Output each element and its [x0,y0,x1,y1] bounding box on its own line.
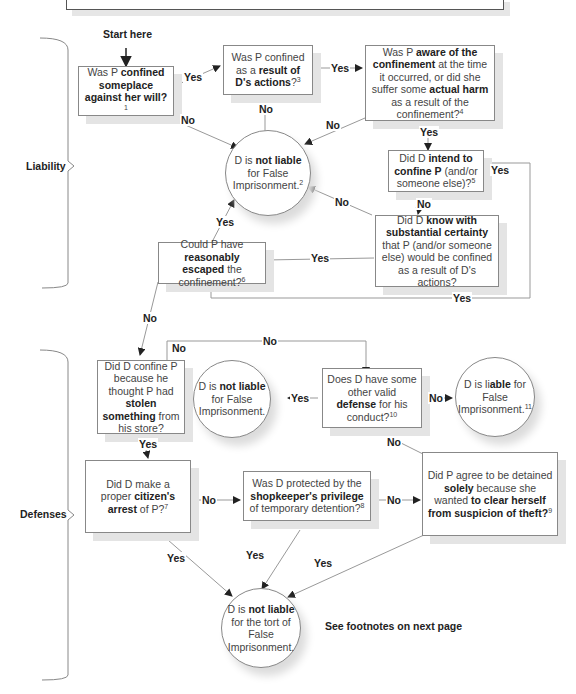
edge-label-yes: Yes [419,126,439,138]
node-stolen-something[interactable]: Did D confine P because he thought P had… [97,360,185,434]
edge-label-yes: Yes [452,292,472,304]
edge-label-yes: Yes [245,549,265,561]
edge-label-no: No [180,114,196,126]
edge-label-no: No [416,198,432,210]
edge-label-no: No [201,494,217,506]
edge-label-yes: Yes [183,71,203,83]
node-confined-against-will[interactable]: Was P confined someplace against her wil… [78,66,174,116]
node-result-of-actions[interactable]: Was P confined as a result of D's action… [223,45,313,95]
edge-label-no: No [386,436,402,448]
footnote-note: See footnotes on next page [325,620,462,632]
node-substantial-certainty[interactable]: Did D know with substantial certainty th… [375,215,499,287]
edge-label-no: No [428,392,444,404]
outcome-not-liable-2: D is not liable for False Imprisonment. [193,360,271,438]
node-agree-to-detention[interactable]: Did P agree to be detained solely becaus… [422,452,558,536]
edge-label-yes: Yes [313,557,333,569]
edge-label-yes: Yes [490,164,510,176]
edge-label-no: No [142,312,158,324]
edge-label-no: No [262,335,278,347]
node-other-defense[interactable]: Does D have some other valid defense for… [322,368,422,428]
edge-label-yes: Yes [330,62,350,74]
node-aware-or-harm[interactable]: Was P aware of the confinement at the ti… [365,45,495,121]
edge-label-yes: Yes [138,438,158,450]
outcome-not-liable-1: D is not liable for False Imprisonment.2 [225,130,311,216]
edge-label-yes: Yes [166,552,186,564]
node-shopkeepers-privilege[interactable]: Was D protected by the shopkeeper's priv… [243,471,371,521]
edge-label-yes: Yes [215,216,235,228]
edge-label-no: No [171,342,187,354]
edge-label-no: No [325,119,341,131]
edge-label-yes: Yes [290,392,310,404]
edge-label-yes: Yes [310,252,330,264]
section-label-defenses: Defenses [20,508,67,520]
section-label-liability: Liability [26,160,66,172]
node-reasonably-escaped[interactable]: Could P have reasonably escaped the conf… [158,242,266,284]
outcome-not-liable-3: D is not liable for the tort of False Im… [221,588,301,668]
edge-label-no: No [386,494,402,506]
edge-label-no: No [258,103,274,115]
node-intend-to-confine[interactable]: Did D intend to confine P (and/or someon… [388,150,484,192]
node-citizens-arrest[interactable]: Did D make a proper citizen's arrest of … [85,460,191,533]
outcome-liable: D is liable for False Imprisonment.11 [455,357,535,437]
start-label: Start here [103,28,152,40]
edge-label-no: No [334,196,350,208]
